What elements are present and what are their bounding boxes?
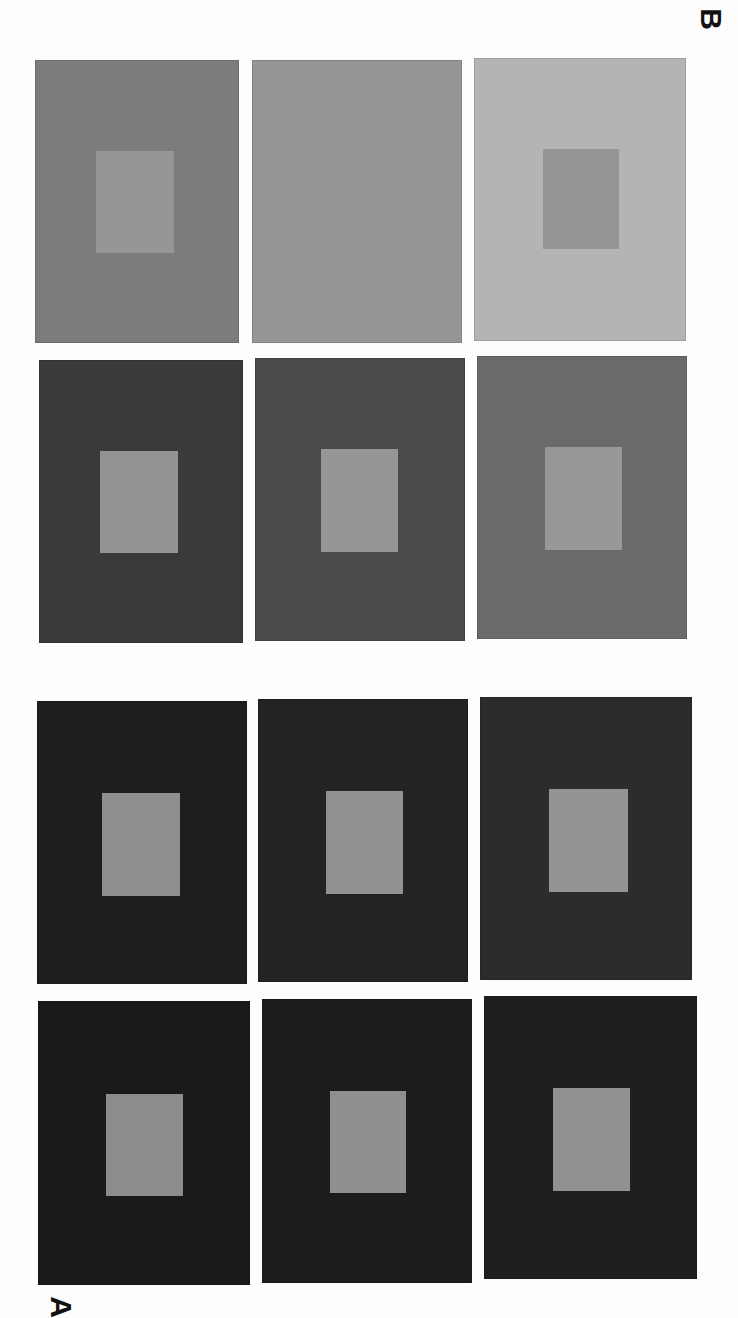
panel-b-r0-c1	[252, 60, 462, 343]
panel-a-r1-c2	[484, 996, 697, 1279]
panel-b-r1-c1	[255, 358, 465, 641]
figure-label-a: A	[44, 1296, 78, 1318]
center-patch	[330, 1091, 406, 1193]
panel-a-r1-c1	[262, 999, 472, 1283]
center-patch	[543, 149, 619, 249]
center-patch	[323, 151, 401, 253]
center-patch	[102, 793, 180, 896]
panel-b-r0-c2	[474, 58, 686, 341]
center-patch	[326, 791, 403, 894]
figure-label-b: B	[694, 8, 728, 30]
panel-a-r0-c0	[37, 701, 247, 984]
center-patch	[106, 1094, 183, 1196]
panel-b-r0-c0	[35, 60, 239, 343]
center-patch	[549, 789, 628, 892]
center-patch	[100, 451, 178, 553]
center-patch	[545, 447, 622, 550]
panel-a-r0-c1	[258, 699, 468, 982]
panel-a-r1-c0	[38, 1001, 250, 1285]
center-patch	[321, 449, 398, 552]
panel-a-r0-c2	[480, 697, 692, 980]
panel-b-r1-c0	[39, 360, 243, 643]
center-patch	[553, 1088, 630, 1191]
center-patch	[96, 151, 174, 253]
panel-b-r1-c2	[477, 356, 687, 639]
